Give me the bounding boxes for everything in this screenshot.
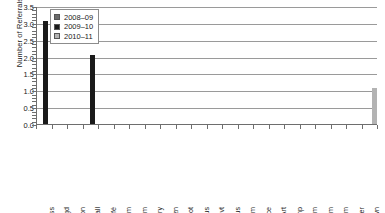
- x-axis-label: Class: [47, 207, 56, 213]
- bar: [170, 7, 173, 124]
- bar: [124, 7, 127, 124]
- bar: [294, 7, 297, 124]
- x-axis-label: Bathrm: [124, 207, 133, 213]
- y-tick-label: 3.5: [12, 3, 34, 12]
- x-axis-label: Voc Rm: [341, 207, 350, 213]
- bar: [217, 7, 220, 124]
- y-tick-label: 1.0: [12, 87, 34, 96]
- bar: [201, 7, 204, 124]
- x-axis-label: Common: [78, 207, 87, 213]
- legend-swatch-icon: [54, 33, 60, 39]
- x-axis-label: Bus zn: [171, 207, 180, 213]
- x-axis-label: Locker rm: [310, 207, 319, 213]
- x-axis-label: Library: [155, 207, 164, 213]
- x-axis-category-labels: ClassPlygdCommonHallCaféBathrmGymLibrary…: [36, 129, 377, 209]
- bar: [356, 7, 359, 124]
- x-axis-label: Music rm: [326, 207, 335, 213]
- legend-label: 2010–11: [64, 32, 93, 41]
- legend-swatch-icon: [54, 14, 60, 20]
- legend-swatch-icon: [54, 24, 60, 30]
- x-axis-label: Special evt: [217, 207, 226, 213]
- y-tick-label: 3.0: [12, 19, 34, 28]
- bar: [155, 7, 158, 124]
- legend-item: 2009–10: [54, 22, 93, 31]
- legend-label: 2008–09: [64, 13, 93, 22]
- legend-label: 2009–10: [64, 22, 93, 31]
- bar: [108, 7, 111, 124]
- bar: [263, 7, 266, 124]
- bar: [310, 7, 313, 124]
- x-tick: [377, 125, 378, 129]
- bar: [325, 7, 328, 124]
- x-axis-label: Other: [357, 207, 366, 213]
- legend-item: 2010–11: [54, 32, 93, 41]
- bar: [248, 7, 251, 124]
- bar: [279, 7, 282, 124]
- bar: [139, 7, 142, 124]
- y-tick-label: 2.5: [12, 36, 34, 45]
- y-tick-label: 2.0: [12, 53, 34, 62]
- y-tick-label: 0.5: [12, 104, 34, 113]
- bar: [186, 7, 189, 124]
- x-axis-label: Hall: [93, 207, 102, 213]
- x-axis-label: Bus: [202, 207, 211, 213]
- bar: [341, 7, 344, 124]
- bar: [372, 7, 375, 124]
- bar-rect: [372, 88, 377, 124]
- x-axis-label: Off-Campus: [233, 207, 242, 213]
- x-axis-label: Café: [109, 207, 118, 213]
- referrals-bar-chart: Number of Referrals 0.00.51.01.52.02.53.…: [0, 0, 385, 213]
- x-axis-label: Art: [279, 207, 288, 213]
- bar: [232, 7, 235, 124]
- x-axis-label: Stadium: [248, 207, 257, 213]
- y-tick-label: 1.5: [12, 70, 34, 79]
- y-tick-label: 0.0: [12, 121, 34, 130]
- x-axis-label: Office: [264, 207, 273, 213]
- x-axis-label: Comp: [295, 207, 304, 213]
- x-axis-label: Gym: [140, 207, 149, 213]
- chart-legend: 2008–092009–102010–11: [50, 9, 99, 44]
- x-axis-label: Park lot: [186, 207, 195, 213]
- x-axis-label: Unknown: [372, 207, 381, 213]
- x-axis-label: Plygd: [62, 207, 71, 213]
- legend-item: 2008–09: [54, 13, 93, 22]
- y-axis-tick-labels: 0.00.51.01.52.02.53.03.5: [12, 0, 34, 213]
